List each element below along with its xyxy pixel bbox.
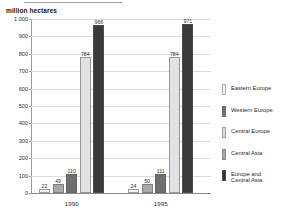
plot-area: 01002003004005006007008009001 000 224911… [31,19,211,193]
y-tick-mark [29,123,31,124]
top-divider-rule [24,2,122,3]
y-tick-mark [29,176,31,177]
y-tick-label: 700 [19,68,28,74]
y-tick-mark [29,89,31,90]
bar-1995-western-europe[interactable]: 50 [142,184,153,193]
legend-swatch [222,170,226,181]
y-tick-mark [29,71,31,72]
legend-item-eastern-europe[interactable]: Eastern Europe [222,84,284,95]
bar-value-label: 50 [144,178,150,184]
bar-value-label: 971 [184,18,193,24]
chart-container: million hectares 01002003004005006007008… [0,0,286,224]
legend-swatch [222,84,226,95]
bar-1995-central-europe[interactable]: 111 [155,174,166,193]
x-tick-label-1990: 1990 [65,200,79,207]
bar-1990-eastern-europe[interactable]: 22 [39,189,50,193]
legend-swatch [222,127,226,138]
legend-swatch [222,149,226,160]
legend-item-western-europe[interactable]: Western Europe [222,106,284,117]
y-tick-label: 300 [19,138,28,144]
y-tick-mark [29,54,31,55]
y-tick-mark [29,158,31,159]
legend-label: Western Europe [231,106,273,113]
y-tick-label: 800 [19,51,28,57]
y-tick-mark [29,36,31,37]
y-axis-unit-label: million hectares [6,7,57,14]
legend-swatch [222,106,226,117]
bar-value-label: 111 [157,168,165,174]
gridline [31,193,211,194]
bar-1990-europe-and-central-asia[interactable]: 966 [93,25,104,193]
y-tick-label: 1 000 [14,16,28,22]
legend-label: Eastern Europe [231,84,271,91]
bar-value-label: 966 [95,19,104,25]
bar-value-label: 49 [55,178,61,184]
y-tick-label: 500 [19,103,28,109]
bar-1995-central-asia[interactable]: 784 [169,57,180,193]
legend-label: Europe and Central Asia [231,170,262,184]
bar-value-label: 110 [68,168,76,174]
legend-item-central-asia[interactable]: Central Asia [222,149,284,160]
y-tick-label: 0 [25,190,28,196]
bar-1990-central-asia[interactable]: 784 [80,57,91,193]
y-tick-label: 100 [19,173,28,179]
bar-group-1995: 24501117849711995 [128,19,200,193]
legend-label: Central Europe [231,127,270,134]
bar-1990-central-europe[interactable]: 110 [66,174,77,193]
y-tick-mark [29,141,31,142]
bar-group-1990: 22491107849661990 [39,19,111,193]
bar-value-label: 784 [81,51,90,57]
y-tick-label: 900 [19,33,28,39]
bar-1990-western-europe[interactable]: 49 [53,184,64,193]
legend-item-europe-and-central-asia[interactable]: Europe and Central Asia [222,170,284,181]
bar-1995-eastern-europe[interactable]: 24 [128,189,139,193]
bar-value-label: 22 [42,183,48,189]
y-tick-label: 600 [19,86,28,92]
legend-label: Central Asia [231,149,262,156]
x-tick-label-1995: 1995 [154,200,168,207]
y-tick-label: 400 [19,120,28,126]
y-tick-label: 200 [19,155,28,161]
y-tick-mark [29,19,31,20]
chart-legend: Eastern EuropeWestern EuropeCentral Euro… [222,84,284,181]
bar-value-label: 784 [170,51,179,57]
y-tick-mark [29,193,31,194]
bar-value-label: 24 [131,183,137,189]
bar-1995-europe-and-central-asia[interactable]: 971 [182,24,193,193]
y-tick-mark [29,106,31,107]
legend-item-central-europe[interactable]: Central Europe [222,127,284,138]
